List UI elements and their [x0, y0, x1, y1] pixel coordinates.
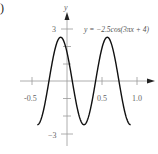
x-axis-arrow-icon [147, 79, 155, 84]
chart: ) y -0.5 0.5 1.0 3 −3 y = −2.5cos(3πx + … [0, 0, 158, 154]
y-tick-label: −3 [48, 131, 57, 140]
equation-label: y = −2.5cos(3πx + 4) [83, 25, 149, 34]
y-tick-label: 3 [52, 25, 56, 34]
x-tick-label: 1.0 [132, 94, 142, 103]
y-axis-label: y [63, 3, 68, 12]
x-tick-label: 0.5 [97, 94, 107, 103]
x-tick-label: -0.5 [24, 94, 37, 103]
panel-label: ) [0, 1, 4, 15]
y-axis-arrow-icon [65, 12, 70, 20]
